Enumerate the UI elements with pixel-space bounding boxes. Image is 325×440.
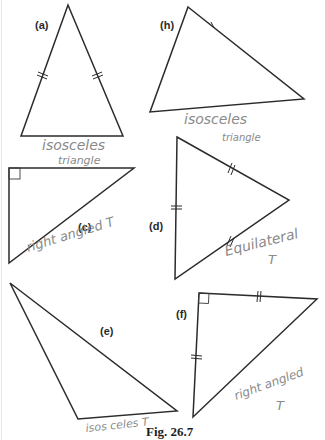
triangle-d-annotation-line1: Equilateral <box>223 225 300 259</box>
figure-caption: Fig. 26.7 <box>146 424 194 439</box>
triangle-a-label: (a) <box>35 19 49 31</box>
right-angle-marker-f <box>198 293 209 304</box>
triangle-c: (c) right angled T <box>9 168 134 263</box>
triangle-f-shape <box>193 293 317 417</box>
triangle-e-shape <box>10 283 177 419</box>
figure-page: (a) isosceles triangle (h) isosceles tri… <box>0 0 325 440</box>
triangle-h-annotation-line1: isosceles <box>184 111 247 127</box>
right-angle-marker-c <box>9 168 20 179</box>
equal-side-ticks-d <box>171 163 235 247</box>
triangle-h-annotation-line2: triangle <box>222 132 261 143</box>
triangle-h-label: (h) <box>160 19 174 31</box>
triangle-c-annotation: right angled T <box>24 214 116 255</box>
triangle-f-annotation-line1: right angled <box>232 365 306 403</box>
triangle-e: (e) isos celes T <box>10 283 177 435</box>
equal-side-ticks-a <box>37 72 103 79</box>
triangle-d-annotation-line2: T <box>268 252 277 267</box>
triangle-f-annotation-line2: T <box>276 398 285 413</box>
triangle-a-annotation-line2: triangle <box>58 154 101 167</box>
triangle-a-annotation-line1: isosceles <box>42 137 105 153</box>
triangle-e-label: (e) <box>100 325 114 337</box>
triangle-h: (h) isosceles triangle <box>150 7 304 143</box>
triangles-diagram: (a) isosceles triangle (h) isosceles tri… <box>0 0 325 440</box>
triangle-a: (a) isosceles triangle <box>21 5 123 167</box>
triangle-d-label: (d) <box>149 220 163 232</box>
triangle-f: (f) right angled T <box>176 291 317 417</box>
triangle-d: (d) Equilateral T <box>149 137 300 279</box>
equal-side-ticks-f <box>191 291 261 359</box>
triangle-f-label: (f) <box>176 308 187 320</box>
